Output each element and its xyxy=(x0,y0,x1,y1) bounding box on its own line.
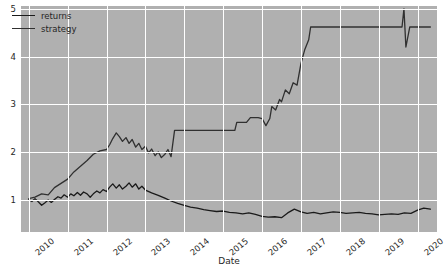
gridline-vertical xyxy=(68,6,69,232)
legend-label-returns: returns xyxy=(41,11,71,21)
x-tick-label: 2012 xyxy=(111,236,134,258)
gridline-horizontal xyxy=(21,152,437,153)
gridline-vertical xyxy=(107,6,108,232)
x-tick-label: 2011 xyxy=(72,236,95,258)
legend-item-returns[interactable]: returns xyxy=(12,9,76,22)
y-tick-label: 4 xyxy=(0,52,16,62)
y-tick-label: 1 xyxy=(0,195,16,205)
legend-label-strategy: strategy xyxy=(41,24,76,34)
legend: returns strategy xyxy=(8,6,81,39)
x-tick-label: 2014 xyxy=(188,236,211,258)
gridline-vertical xyxy=(223,6,224,232)
gridline-horizontal xyxy=(21,200,437,201)
gridline-vertical xyxy=(301,6,302,232)
gridline-horizontal xyxy=(21,57,437,58)
legend-swatch-returns xyxy=(12,15,35,16)
x-axis-title: Date xyxy=(9,256,448,266)
gridline-horizontal xyxy=(21,9,437,10)
gridline-vertical xyxy=(379,6,380,232)
legend-item-strategy[interactable]: strategy xyxy=(12,22,76,35)
x-tick-label: 2019 xyxy=(383,236,406,258)
legend-swatch-strategy xyxy=(12,28,35,29)
gridline-vertical xyxy=(418,6,419,232)
x-tick-label: 2010 xyxy=(33,236,56,258)
x-tick-label: 2018 xyxy=(344,236,367,258)
x-tick-label: 2015 xyxy=(227,236,250,258)
y-tick-label: 3 xyxy=(0,99,16,109)
gridline-horizontal xyxy=(21,104,437,105)
x-tick-label: 2013 xyxy=(149,236,172,258)
gridline-vertical xyxy=(340,6,341,232)
gridline-vertical xyxy=(262,6,263,232)
gridline-vertical xyxy=(29,6,30,232)
gridline-vertical xyxy=(184,6,185,232)
plot-area xyxy=(21,6,437,232)
x-tick-label: 2016 xyxy=(266,236,289,258)
y-tick-label: 2 xyxy=(0,147,16,157)
series-lines xyxy=(21,6,437,232)
x-tick-label: 2017 xyxy=(305,236,328,258)
x-tick-label: 2020 xyxy=(422,236,445,258)
gridline-vertical xyxy=(145,6,146,232)
